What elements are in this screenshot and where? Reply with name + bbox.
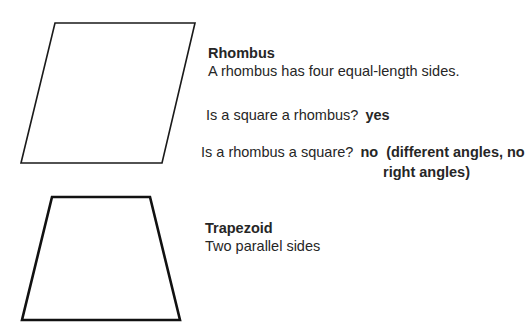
question-text: Is a square a rhombus? xyxy=(206,107,358,123)
question-text: Is a rhombus a square? xyxy=(201,144,353,160)
trapezoid-title: Trapezoid xyxy=(205,219,273,237)
rhombus-description: A rhombus has four equal-length sides. xyxy=(208,62,459,80)
trapezoid-shape xyxy=(22,197,180,320)
rhombus-question-2: Is a rhombus a square? no (different ang… xyxy=(201,143,525,161)
rhombus-title: Rhombus xyxy=(208,44,275,62)
rhombus-question-1: Is a square a rhombus? yes xyxy=(206,106,390,124)
rhombus-shape xyxy=(21,23,195,163)
trapezoid-description: Two parallel sides xyxy=(205,237,320,255)
rhombus-answer-2-continued: right angles) xyxy=(383,163,470,181)
answer-text: no (different angles, no xyxy=(360,144,524,160)
answer-text: yes xyxy=(365,107,389,123)
